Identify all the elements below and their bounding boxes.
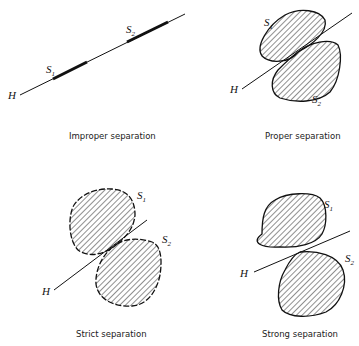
label-h: H [229, 83, 239, 95]
panel-strict: H S1 S2 [41, 189, 172, 306]
label-h: H [239, 267, 249, 279]
label-s2: S2 [126, 23, 136, 38]
caption-improper: Improper separation [69, 131, 156, 141]
label-s2: S2 [162, 233, 172, 248]
caption-strong: Strong separation [262, 329, 338, 339]
panel-proper: H S1 S2 [229, 10, 352, 108]
caption-proper: Proper separation [265, 131, 341, 141]
set-s2-shape [278, 252, 344, 317]
panel-improper: H S1 S2 [7, 14, 185, 101]
label-s1: S1 [137, 189, 146, 204]
caption-strict: Strict separation [76, 329, 147, 339]
label-h: H [7, 89, 17, 101]
label-h: H [41, 285, 51, 297]
label-s1: S1 [46, 63, 55, 78]
set-s1-shape [257, 194, 326, 247]
separation-diagram: H S1 S2 H S1 S2 H S1 S2 H S1 S2 [0, 0, 359, 346]
set-s1-segment [53, 62, 87, 79]
label-s2: S2 [345, 252, 355, 267]
panel-strong: H S1 S2 [239, 194, 355, 317]
